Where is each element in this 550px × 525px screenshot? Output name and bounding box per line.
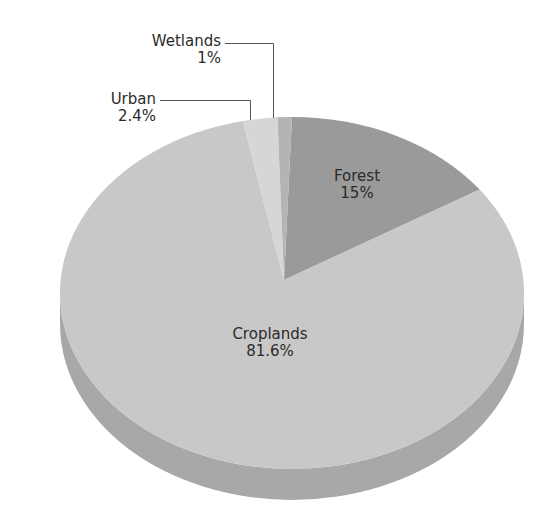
pie-chart [0,0,550,525]
label-forest-name: Forest [334,168,380,185]
label-forest: Forest 15% [334,168,380,202]
label-wetlands-pct: 1% [152,50,221,67]
label-urban-name: Urban [111,91,156,108]
label-croplands: Croplands 81.6% [232,326,307,360]
pie-slices [60,117,524,469]
leader-line-urban [160,101,251,121]
label-urban: Urban 2.4% [111,91,156,125]
label-wetlands: Wetlands 1% [152,33,221,67]
label-wetlands-name: Wetlands [152,33,221,50]
label-forest-pct: 15% [334,185,380,202]
label-croplands-pct: 81.6% [232,343,307,360]
label-croplands-name: Croplands [232,326,307,343]
leader-line-wetlands [225,44,274,119]
label-urban-pct: 2.4% [111,108,156,125]
